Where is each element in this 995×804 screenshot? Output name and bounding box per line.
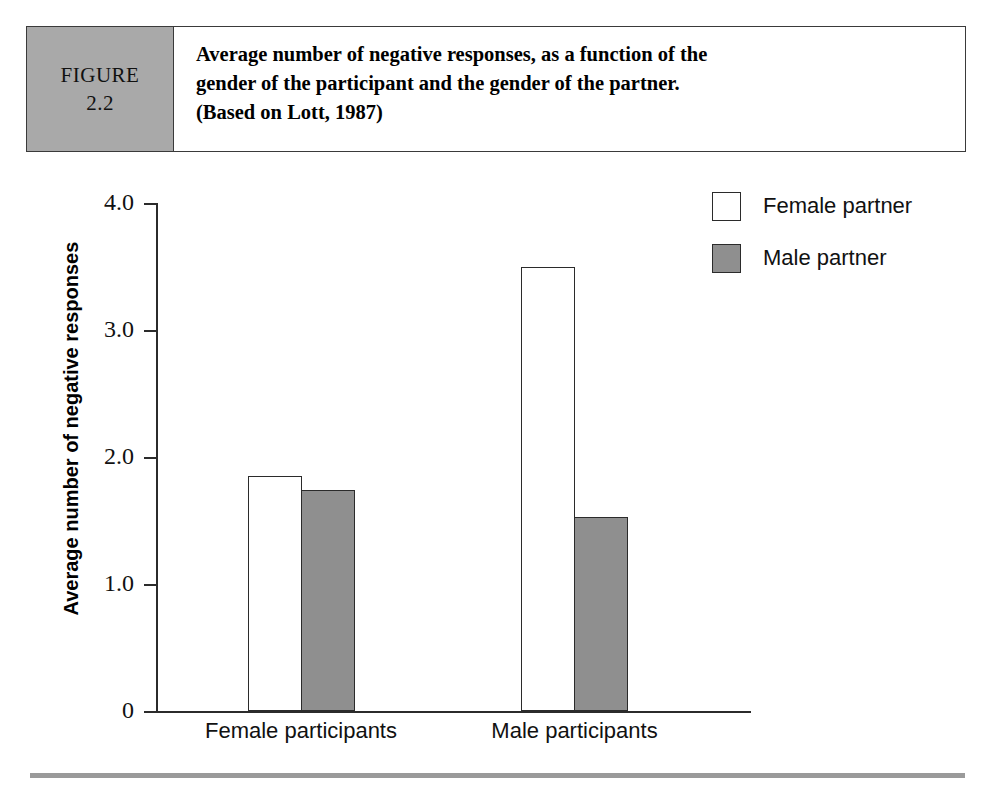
legend-swatch-female-partner [712,192,741,221]
y-tick-mark-0 [144,711,157,713]
legend-item-male-partner[interactable]: Male partner [712,232,912,284]
figure-caption-block: FIGURE 2.2 Average number of negative re… [26,26,966,152]
x-axis-line [156,711,751,713]
chart-legend: Female partner Male partner [712,180,912,284]
caption-line-2: gender of the participant and the gender… [196,69,947,98]
legend-swatch-male-partner [712,244,741,273]
x-axis-label-male-participants: Male participants [467,718,682,744]
bar-female-participants-male-partner[interactable] [301,490,355,711]
y-tick-label-2: 2.0 [74,443,134,470]
y-tick-label-0: 0 [74,697,134,724]
legend-label-male-partner: Male partner [763,245,887,271]
y-tick-mark-2 [144,457,157,459]
legend-item-female-partner[interactable]: Female partner [712,180,912,232]
y-tick-label-4: 4.0 [74,189,134,216]
figure-tag-number: 2.2 [86,89,114,117]
y-tick-mark-3 [144,330,157,332]
x-axis-label-female-participants: Female participants [181,718,421,744]
y-axis-title: Average number of negative responses [60,256,83,616]
figure-caption-text: Average number of negative responses, as… [174,27,965,151]
y-tick-label-3: 3.0 [74,316,134,343]
bar-male-participants-female-partner[interactable] [521,267,575,712]
y-tick-label-1: 1.0 [74,570,134,597]
bar-chart: Average number of negative responses 0 1… [0,152,995,762]
figure-tag-label: FIGURE [61,61,140,89]
bar-male-participants-male-partner[interactable] [574,517,628,711]
caption-line-1: Average number of negative responses, as… [196,40,947,69]
figure-number-box: FIGURE 2.2 [27,27,174,151]
page-bottom-rule [30,773,965,778]
y-tick-mark-1 [144,584,157,586]
caption-line-3: (Based on Lott, 1987) [196,98,947,127]
y-tick-mark-4 [144,203,157,205]
legend-label-female-partner: Female partner [763,193,912,219]
bar-female-participants-female-partner[interactable] [248,476,302,711]
